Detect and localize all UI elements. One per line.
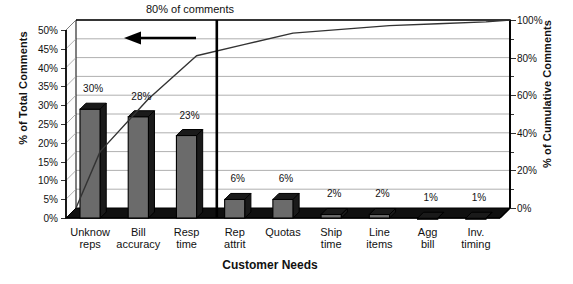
- category-label-line2: bill: [418, 238, 438, 250]
- category-label-line1: Line: [366, 226, 392, 238]
- bar-value-label: 1%: [423, 192, 437, 203]
- category-label-line2: items: [366, 238, 392, 250]
- category-label-line1: Inv.: [461, 226, 490, 238]
- x-axis-category-label: Unknowreps: [70, 226, 110, 250]
- pareto-chart: % of Total Comments % of Cumulative Comm…: [0, 0, 573, 284]
- x-axis-category-label: Lineitems: [366, 226, 392, 250]
- category-label-line2: accuracy: [116, 238, 160, 250]
- category-label-line1: Bill: [116, 226, 160, 238]
- bar-value-label: 6%: [279, 173, 293, 184]
- category-label-line1: Agg: [418, 226, 438, 238]
- category-label-line1: Resp: [174, 226, 200, 238]
- bar-value-label: 23%: [180, 110, 200, 121]
- category-label-line1: Quotas: [265, 226, 300, 238]
- category-label-line1: Rep: [224, 226, 245, 238]
- bar-value-label: 28%: [131, 91, 151, 102]
- bar-value-label: 2%: [375, 188, 389, 199]
- bar-value-label: 30%: [83, 83, 103, 94]
- x-axis-category-label: Aggbill: [418, 226, 438, 250]
- bar-value-label: 2%: [327, 188, 341, 199]
- x-axis-category-label: Repattrit: [224, 226, 245, 250]
- x-axis-category-label: Inv.timing: [461, 226, 490, 250]
- category-label-line2: time: [174, 238, 200, 250]
- category-label-line2: timing: [461, 238, 490, 250]
- bar-value-label: 1%: [472, 192, 486, 203]
- x-axis-category-label: Resptime: [174, 226, 200, 250]
- x-axis-category-label: Shiptime: [320, 226, 342, 250]
- category-label-line2: attrit: [224, 238, 245, 250]
- x-axis-category-label: Billaccuracy: [116, 226, 160, 250]
- x-axis-category-label: Quotas: [265, 226, 300, 238]
- category-label-line1: Unknow: [70, 226, 110, 238]
- category-label-line1: Ship: [320, 226, 342, 238]
- bar-value-label: 6%: [231, 173, 245, 184]
- category-label-line2: time: [320, 238, 342, 250]
- category-label-line2: reps: [70, 238, 110, 250]
